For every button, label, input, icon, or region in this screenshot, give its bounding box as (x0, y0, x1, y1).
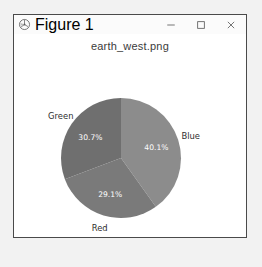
maximize-button[interactable] (186, 15, 216, 34)
window-title: Figure 1 (35, 16, 94, 34)
pie-chart: 40.1% 29.1% 30.7% Blue Red Green (14, 34, 246, 237)
pie-label-red: Red (92, 223, 108, 233)
pie-label-blue: Blue (181, 131, 200, 141)
close-button[interactable] (216, 15, 246, 34)
pie-percent-green: 30.7% (78, 133, 102, 142)
pie-label-green: Green (48, 111, 73, 121)
pie-slices (61, 98, 181, 218)
screenshot-root: Figure 1 (0, 0, 262, 267)
pie-percent-red: 29.1% (98, 190, 122, 199)
figure-canvas: earth_west.png 40.1% 29.1% 30.7% Blue (14, 34, 246, 237)
pie-percent-blue: 40.1% (144, 143, 168, 152)
minimize-button[interactable] (156, 15, 186, 34)
matplotlib-icon (18, 18, 31, 31)
window-controls (156, 15, 246, 34)
figure-window: Figure 1 (13, 14, 247, 238)
window-titlebar[interactable]: Figure 1 (14, 15, 246, 34)
